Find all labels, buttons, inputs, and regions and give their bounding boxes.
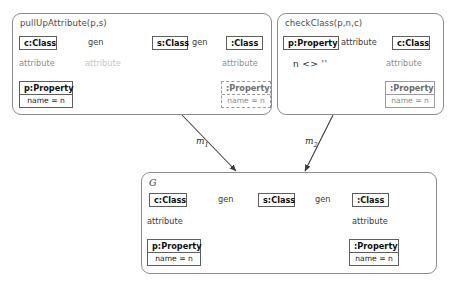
node-header: :Property [222,82,270,94]
node-p1-s-class[interactable]: s:Class [152,36,188,50]
node-g-class[interactable]: :Class [352,193,389,207]
node-p2-property-negated[interactable]: :Property name = n [385,81,435,108]
node-p2-c-class[interactable]: c:Class [392,36,430,50]
node-header: s:Class [153,37,187,49]
node-attribute: name = n [386,94,434,107]
morphism-label-text: m [305,136,314,146]
edge-label-g-attr-2: attribute [352,216,388,226]
edge-label-p1-attr-2: attribute [85,58,121,68]
node-attribute: name = n [222,94,270,107]
node-header: :Class [353,194,388,206]
node-header: p:Property [148,240,200,252]
node-g-property[interactable]: :Property name = n [349,239,399,266]
edge-label-p1-attr-3: attribute [222,58,258,68]
morphism-label-m2: m2 [305,136,318,149]
node-attribute: name = n [20,94,72,107]
node-header: :Property [386,82,434,94]
node-header: c:Class [393,37,429,49]
node-g-c-class[interactable]: c:Class [149,193,187,207]
edge-label-p2-attr-2: attribute [386,58,422,68]
node-p1-c-class[interactable]: c:Class [19,36,57,50]
node-header: s:Class [259,194,294,206]
node-p2-p-property[interactable]: p:Property [283,36,339,50]
morphism-label-subscript: 2 [314,141,318,149]
node-header: :Class [227,37,262,49]
panel-title-check-class: checkClass(p,n,c) [285,18,362,28]
constraint-expression: n <> '' [293,59,327,69]
node-header: p:Property [20,82,72,94]
graph-label-g: G [149,177,157,188]
morphism-label-m1: m1 [196,136,209,149]
node-header: c:Class [20,37,56,49]
panel-title-pull-up-attribute: pullUpAttribute(p,s) [20,18,107,28]
edge-label-p2-attr-1: attribute [341,37,377,47]
node-header: p:Property [284,37,338,49]
node-attribute: name = n [148,252,200,265]
morphism-label-subscript: 1 [205,141,209,149]
edge-label-p1-gen-1: gen [88,37,103,47]
node-p1-property-dashed[interactable]: :Property name = n [221,81,271,108]
node-p1-p-property[interactable]: p:Property name = n [19,81,73,108]
diagram-canvas: pullUpAttribute(p,s) c:Class s:Class :Cl… [0,0,456,281]
morphism-label-text: m [196,136,205,146]
morphism-arrow-m1 [182,115,236,171]
node-p1-class[interactable]: :Class [226,36,263,50]
node-g-p-property[interactable]: p:Property name = n [147,239,201,266]
edge-label-g-attr-1: attribute [147,216,183,226]
node-attribute: name = n [350,252,398,265]
node-header: c:Class [150,194,186,206]
edge-label-p1-gen-2: gen [192,37,207,47]
node-header: :Property [350,240,398,252]
node-g-s-class[interactable]: s:Class [258,193,295,207]
edge-label-g-gen-2: gen [315,194,330,204]
edge-label-g-gen-1: gen [218,194,233,204]
edge-label-p1-attr-1: attribute [19,58,55,68]
